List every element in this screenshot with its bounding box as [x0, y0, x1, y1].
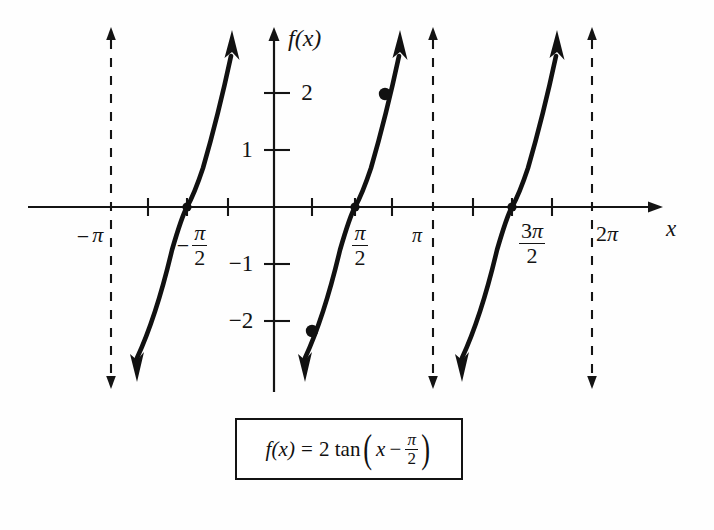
x-tick-label-pi: π: [400, 224, 434, 247]
figure-canvas: f(x) x −−ππ − π 2 π 2 π 3π 2 2π 2 1 −1 −…: [0, 0, 714, 530]
x-axis: [28, 202, 663, 213]
y-axis: [269, 27, 280, 392]
x-tick-label-2pi: 2π: [596, 221, 640, 247]
formula-box: f(x) = 2 tan ( x − π 2 ): [235, 418, 463, 480]
x-tick-label-3pi-over-2: 3π 2: [504, 220, 560, 268]
x-tick-label-neg-pi: −−ππ: [60, 222, 120, 250]
formula-argument-fraction: π 2: [405, 431, 418, 468]
y-tick-label-1: 1: [236, 137, 258, 163]
marked-point-high: [379, 88, 391, 100]
formula-open-paren: (: [363, 435, 372, 464]
formula-expression: f(x) = 2 tan ( x − π 2 ): [266, 431, 433, 468]
y-tick-label-2: 2: [296, 80, 318, 106]
formula-coefficient: 2: [319, 437, 330, 462]
formula-function: tan: [335, 437, 361, 462]
x-tick-label-pi-over-2: π 2: [340, 222, 380, 270]
formula-lhs: f(x): [266, 437, 296, 462]
y-axis-label: f(x): [288, 25, 321, 52]
y-tick-label-neg-1: −1: [222, 251, 260, 277]
x-tick-label-neg-pi-over-2: − π 2: [160, 222, 224, 270]
formula-close-paren: ): [421, 435, 430, 464]
formula-fraction-denominator: 2: [405, 450, 418, 468]
formula-fraction-numerator: π: [405, 431, 418, 450]
y-tick-label-neg-2: −2: [222, 308, 260, 334]
formula-argument-operator: −: [389, 437, 401, 462]
marked-point-low: [306, 325, 318, 337]
formula-equals: =: [301, 437, 313, 462]
formula-argument-variable: x: [376, 437, 385, 462]
x-axis-label: x: [666, 216, 676, 242]
